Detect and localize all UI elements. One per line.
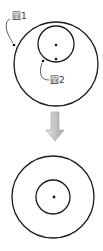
outer-circle-1 — [14, 22, 98, 106]
center-dot-bottom — [53, 196, 56, 199]
leader-line-circle-2 — [40, 63, 49, 80]
concentric-circles-diagram: 圓1 圓2 — [0, 0, 103, 251]
leader-tip-circle-2 — [42, 60, 45, 63]
bottom-figure — [12, 156, 94, 238]
center-dot-circle-1 — [55, 44, 58, 47]
center-dot-circle-2 — [55, 58, 58, 61]
top-figure: 圓1 圓2 — [6, 11, 98, 106]
down-arrow-icon — [46, 112, 64, 141]
leader-tip-circle-1 — [13, 44, 16, 47]
label-circle-2: 圓2 — [50, 75, 65, 85]
leader-line-circle-1 — [6, 19, 13, 43]
label-circle-1: 圓1 — [12, 11, 27, 21]
